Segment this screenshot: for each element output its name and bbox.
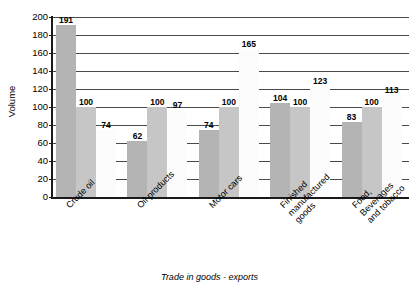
bar-chart: Volume 200180160140120100806040200 19110… xyxy=(0,0,419,292)
y-axis-tick-label: 180 xyxy=(22,30,48,40)
bar xyxy=(342,122,362,197)
bar-value-label: 62 xyxy=(125,132,149,141)
bar-value-label: 100 xyxy=(288,98,312,107)
y-axis-tick-label: 80 xyxy=(22,120,48,130)
bar-value-label: 191 xyxy=(54,16,78,25)
bar-value-label: 113 xyxy=(380,86,404,95)
gridline xyxy=(52,89,409,90)
bar xyxy=(199,130,219,197)
bar-value-label: 165 xyxy=(237,40,261,49)
y-axis-tick-label: 60 xyxy=(22,138,48,148)
x-axis-title: Trade in goods - exports xyxy=(0,272,419,282)
gridline xyxy=(52,53,409,54)
y-axis-tick-label: 100 xyxy=(22,102,48,112)
bar-value-label: 74 xyxy=(197,121,221,130)
bar-value-label: 100 xyxy=(360,98,384,107)
y-axis-tick-mark xyxy=(49,143,53,144)
y-axis-tick-label: 40 xyxy=(22,156,48,166)
gridline xyxy=(52,17,409,18)
y-axis-tick-mark xyxy=(49,161,53,162)
y-axis-tick-label: 160 xyxy=(22,48,48,58)
bar-value-label: 97 xyxy=(165,101,189,110)
y-axis-tick-mark xyxy=(49,71,53,72)
y-axis-title: Volume xyxy=(6,72,17,132)
y-axis-tick-label: 120 xyxy=(22,84,48,94)
y-axis-tick-mark xyxy=(49,197,53,198)
y-axis-tick-label: 0 xyxy=(22,192,48,202)
y-axis-tick-label: 200 xyxy=(22,12,48,22)
y-axis-tick-mark xyxy=(49,89,53,90)
y-axis-tick-mark xyxy=(49,35,53,36)
y-axis-tick-label: 20 xyxy=(22,174,48,184)
bar-value-label: 123 xyxy=(308,77,332,86)
y-axis-tick-mark xyxy=(49,107,53,108)
bar-value-label: 100 xyxy=(217,98,241,107)
bar xyxy=(167,110,187,197)
bar xyxy=(127,141,147,197)
y-axis-tick-labels: 200180160140120100806040200 xyxy=(16,0,48,292)
y-axis-tick-mark xyxy=(49,17,53,18)
plot-area: 1911007462100977410016510410012383100113 xyxy=(52,17,409,197)
bar xyxy=(270,103,290,197)
bar-value-label: 100 xyxy=(74,98,98,107)
y-axis-tick-label: 140 xyxy=(22,66,48,76)
bar xyxy=(96,130,116,197)
gridline xyxy=(52,35,409,36)
bar-value-label: 83 xyxy=(340,113,364,122)
gridline xyxy=(52,71,409,72)
bar xyxy=(239,49,259,198)
y-axis-tick-mark xyxy=(49,125,53,126)
y-axis-tick-mark xyxy=(49,53,53,54)
bar xyxy=(56,25,76,197)
bar-value-label: 74 xyxy=(94,121,118,130)
y-axis-tick-mark xyxy=(49,179,53,180)
